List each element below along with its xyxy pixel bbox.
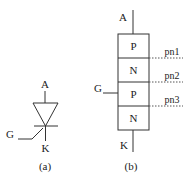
- layer-p1: P: [130, 40, 136, 52]
- gate-label-a: G: [6, 128, 14, 140]
- thyristor-symbol: A G K (a): [6, 78, 58, 173]
- layer-n1: N: [130, 64, 138, 76]
- caption-b: (b): [125, 160, 138, 173]
- cathode-label-a: K: [42, 142, 50, 154]
- layer-p2: P: [130, 88, 136, 100]
- junction-label-1: pn1: [165, 46, 180, 57]
- thyristor-diagram: A G K (a) A P N P N pn1 pn2 pn3 G K (b): [0, 0, 190, 181]
- gate-lead-a: [18, 128, 43, 139]
- junction-label-2: pn2: [165, 70, 180, 81]
- layer-n2: N: [130, 112, 138, 124]
- gate-label-b: G: [94, 82, 102, 94]
- cathode-label-b: K: [120, 139, 128, 151]
- diode-triangle-icon: [33, 103, 58, 126]
- pnpn-structure: A P N P N pn1 pn2 pn3 G K (b): [94, 10, 183, 173]
- anode-label-a: A: [41, 78, 49, 90]
- junction-label-3: pn3: [165, 94, 180, 105]
- anode-label-b: A: [119, 11, 127, 23]
- caption-a: (a): [39, 160, 52, 173]
